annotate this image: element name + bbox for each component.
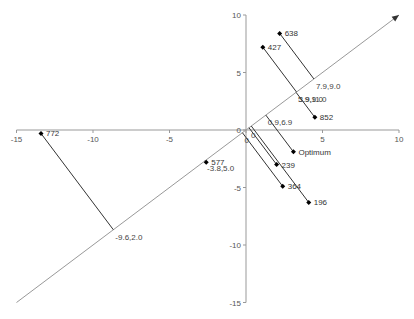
data-point-label: Optimum [298, 148, 331, 157]
projection-label: 5.9,11.0 [298, 95, 327, 104]
projection-label: 0.9,6.9 [268, 118, 293, 127]
projection-label: -9.6,2.0 [115, 233, 143, 242]
data-point-label: 427 [268, 43, 282, 52]
x-tick-label: -15 [11, 135, 23, 144]
projection-line [280, 33, 314, 79]
projection-label: 0 [244, 136, 249, 145]
data-point-label: 638 [285, 29, 299, 38]
data-point-label: 772 [46, 129, 60, 138]
x-tick-label: -5 [166, 135, 174, 144]
x-tick-label: 5 [320, 135, 325, 144]
data-point-label: 577 [211, 158, 225, 167]
y-tick-label: -5 [234, 184, 242, 193]
data-point-label: 239 [282, 161, 296, 170]
data-point-label: 852 [320, 113, 334, 122]
projection-line [41, 133, 113, 229]
arrow-icon [392, 15, 399, 22]
y-tick-label: 10 [232, 11, 241, 20]
x-tick-label: 10 [395, 135, 404, 144]
biplot-chart: -15-10-55101050-5-10-15 7.9,9.03.9,9.05.… [0, 0, 414, 319]
projection-lines: 7.9,9.03.9,9.05.9,11.00.9,6.900-3.8,5.0-… [41, 33, 341, 241]
diagonal-axis [17, 15, 400, 303]
data-point-label: 196 [314, 198, 328, 207]
y-tick-label: -15 [229, 299, 241, 308]
projection-line [263, 47, 297, 92]
y-tick-label: 5 [237, 69, 242, 78]
x-tick-label: -10 [87, 135, 99, 144]
y-tick-label: -10 [229, 241, 241, 250]
projection-label: 7.9,9.0 [316, 82, 341, 91]
data-point-label: 364 [288, 182, 302, 191]
